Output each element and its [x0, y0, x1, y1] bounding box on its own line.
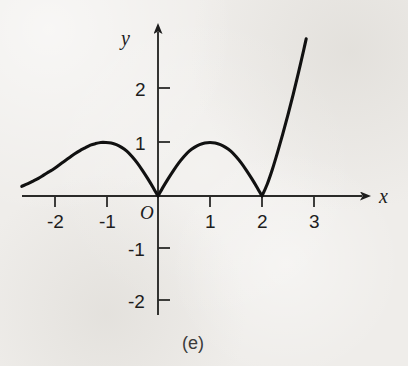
y-tick-label--1: -1 — [128, 240, 145, 259]
x-tick-label--1: -1 — [99, 212, 116, 231]
y-axis-label: y — [121, 28, 130, 48]
x-tick-label-1: 1 — [205, 212, 216, 231]
figure-panel: -2 -1 1 2 3 2 1 -1 -2 O y x (e) — [0, 0, 408, 366]
x-axis-ticks — [55, 196, 314, 207]
curve-path — [22, 39, 306, 196]
y-tick-label--2: -2 — [128, 292, 145, 311]
x-tick-label--2: -2 — [47, 212, 64, 231]
y-tick-label-2: 2 — [135, 80, 146, 99]
y-tick-label-1: 1 — [135, 134, 146, 153]
origin-label: O — [140, 203, 154, 222]
x-axis-label: x — [379, 186, 388, 206]
graph-canvas — [0, 0, 408, 366]
x-tick-label-2: 2 — [257, 212, 268, 231]
x-tick-label-3: 3 — [309, 212, 320, 231]
figure-caption: (e) — [182, 334, 204, 352]
